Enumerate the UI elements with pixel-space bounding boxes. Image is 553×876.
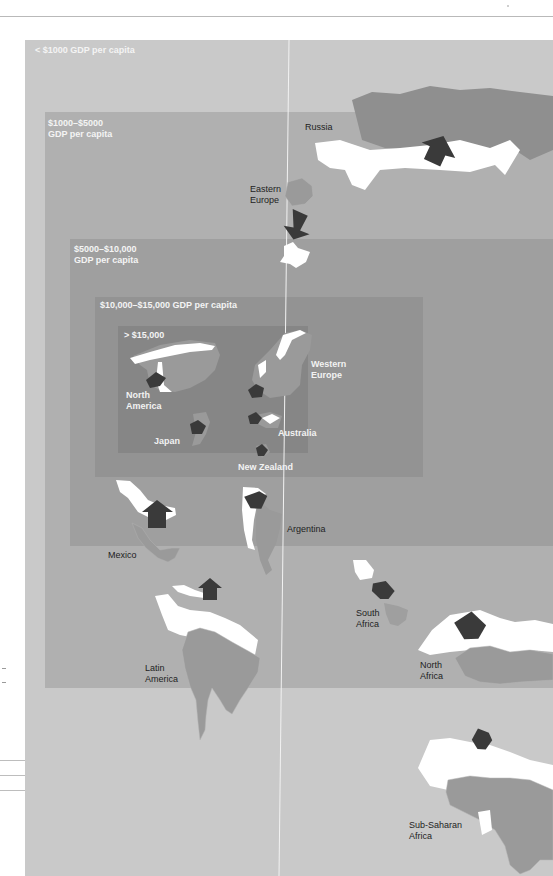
region-label-line: Africa [409, 831, 462, 842]
region-label-line: Africa [356, 619, 380, 630]
tier-label-over-15000: > $15,000 [124, 330, 164, 341]
sub-saharan-current-land [446, 776, 553, 874]
region-label-line: America [126, 401, 162, 412]
region-label-sub-saharan-africa: Sub-Saharan Africa [409, 820, 462, 842]
region-label-line: South [356, 608, 380, 619]
eastern-europe-land [285, 178, 313, 206]
region-label-south-africa: South Africa [356, 608, 380, 630]
region-label-line: Europe [311, 370, 346, 381]
south-africa-arrow [370, 578, 396, 602]
region-label-line: Africa [420, 671, 443, 682]
eastern-europe-future-land [280, 242, 310, 268]
region-label-line: Latin [145, 663, 178, 674]
region-label-line: Western [311, 359, 346, 370]
mexico-current-land [132, 523, 180, 562]
region-label-new-zealand: New Zealand [238, 462, 293, 473]
south-africa-current-land [384, 603, 408, 626]
tier-label-line: GDP per capita [74, 255, 138, 266]
region-label-line: Sub-Saharan [409, 820, 462, 831]
tier-label-10000-15000: $10,000–$15,000 GDP per capita [100, 300, 237, 311]
north-africa-current-land [455, 646, 553, 684]
region-label-japan: Japan [154, 436, 180, 447]
tier-label-under-1000: < $1000 GDP per capita [35, 45, 135, 56]
tier-label-line: $5000–$10,000 [74, 244, 138, 255]
region-label-line: North [420, 660, 443, 671]
tier-label-line: $1000–$5000 [48, 118, 112, 129]
mexico-future-land [116, 480, 176, 520]
region-label-latin-america: Latin America [145, 663, 178, 685]
south-africa-future-land [353, 560, 374, 580]
region-label-argentina: Argentina [287, 524, 326, 535]
region-label-australia: Australia [278, 428, 317, 439]
region-label-eastern-europe: Eastern Europe [250, 184, 281, 206]
region-label-north-america: North America [126, 390, 162, 412]
tier-label-5000-10000: $5000–$10,000 GDP per capita [74, 244, 138, 266]
region-label-line: Europe [250, 195, 281, 206]
region-label-line: North [126, 390, 162, 401]
region-label-line: Eastern [250, 184, 281, 195]
region-label-western-europe: Western Europe [311, 359, 346, 381]
argentina-current-land [256, 500, 282, 575]
sub-saharan-white-patch [478, 810, 492, 835]
region-label-north-africa: North Africa [420, 660, 443, 682]
guide-line [279, 40, 289, 876]
tier-label-line: GDP per capita [48, 129, 112, 140]
region-label-line: America [145, 674, 178, 685]
region-label-russia: Russia [305, 122, 333, 133]
region-label-mexico: Mexico [108, 550, 137, 561]
tier-label-1000-5000: $1000–$5000 GDP per capita [48, 118, 112, 140]
